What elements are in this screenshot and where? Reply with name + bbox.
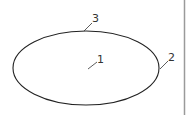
leader-line-2	[160, 61, 168, 69]
leader-line-1	[88, 62, 97, 69]
label-3: 3	[92, 12, 99, 25]
leader-line-3	[84, 23, 92, 31]
label-1: 1	[97, 53, 104, 66]
label-2: 2	[168, 51, 175, 64]
ellipse-diagram: 3 1 2	[0, 0, 188, 115]
ellipse-outline	[13, 31, 159, 105]
